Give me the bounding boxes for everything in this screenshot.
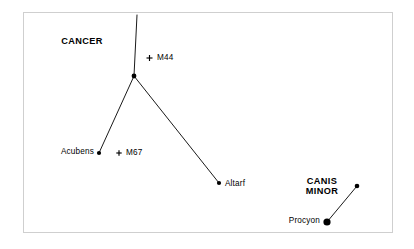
star-label-acubens: Acubens — [61, 147, 94, 156]
constellation-label-canis-minor: CANISMINOR — [306, 176, 338, 197]
object-label-m67: M67 — [126, 148, 142, 157]
star-dot — [217, 181, 221, 185]
star-dot — [97, 151, 101, 155]
star-dot — [355, 184, 360, 189]
star-chart: AcubensAltarfProcyonM44M67CANCERCANISMIN… — [0, 0, 414, 249]
star-label-altarf: Altarf — [225, 179, 245, 188]
constellation-line — [99, 76, 134, 153]
constellation-line — [134, 76, 219, 183]
object-label-m44: M44 — [157, 53, 173, 62]
constellation-label-cancer: CANCER — [61, 36, 103, 46]
constellation-line — [134, 15, 137, 76]
deep-sky-object-marker — [116, 150, 121, 155]
star-dot — [132, 74, 137, 79]
star-label-procyon: Procyon — [289, 216, 320, 225]
deep-sky-object-marker — [147, 55, 153, 61]
star-dot — [323, 218, 330, 225]
